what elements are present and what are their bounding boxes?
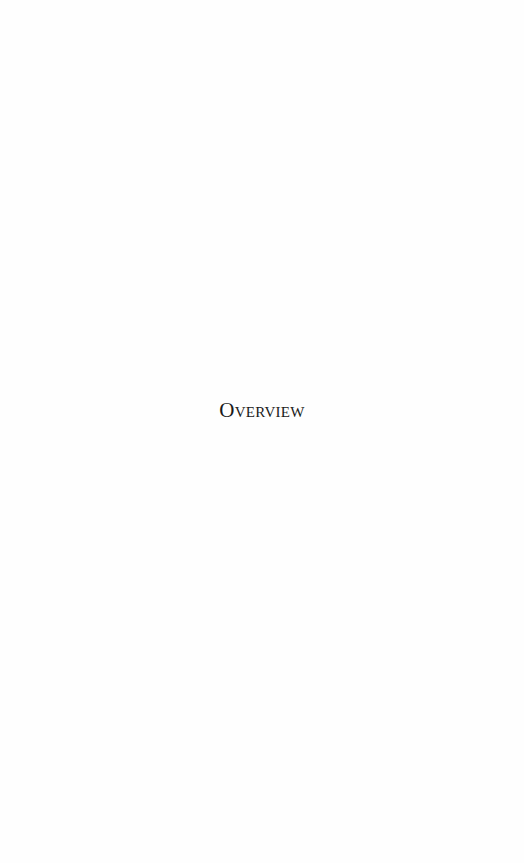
document-page: Overview bbox=[0, 0, 524, 863]
section-heading: Overview bbox=[0, 396, 524, 424]
